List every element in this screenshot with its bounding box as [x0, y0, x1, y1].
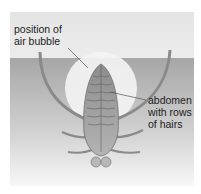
eye-right: [101, 157, 111, 167]
diagram-panel: position of air bubble abdomen with rows…: [10, 12, 194, 186]
label-air-bubble-line-2: air bubble: [14, 35, 62, 47]
label-abdomen-line-3: of hairs: [148, 118, 192, 130]
label-air-bubble: position of air bubble: [14, 23, 62, 47]
label-abdomen: abdomen with rows of hairs: [148, 94, 192, 130]
eye-left: [91, 157, 101, 167]
label-abdomen-line-2: with rows: [148, 106, 192, 118]
label-air-bubble-line-1: position of: [14, 23, 62, 35]
label-abdomen-line-1: abdomen: [148, 94, 192, 106]
